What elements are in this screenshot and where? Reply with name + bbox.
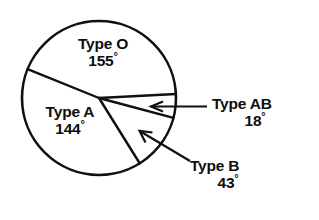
degree-symbol-icon: ° (261, 110, 265, 122)
slice-label-type-ab-value: 18° (212, 113, 312, 130)
slice-label-type-o-number: 155 (88, 52, 113, 69)
slice-label-type-a-number: 144 (55, 120, 80, 137)
slice-label-type-ab: Type AB 18° (212, 96, 312, 129)
slice-label-type-b-number: 43 (217, 174, 234, 191)
slice-label-type-o-name: Type O (55, 36, 151, 53)
degree-symbol-icon: ° (114, 50, 118, 62)
slice-label-type-b-value: 43° (190, 175, 282, 192)
slice-label-type-a: Type A 144° (27, 104, 113, 137)
degree-symbol-icon: ° (234, 172, 238, 184)
slice-label-type-ab-number: 18 (244, 112, 261, 129)
slice-label-type-a-name: Type A (27, 104, 113, 121)
slice-label-type-o: Type O 155° (55, 36, 151, 69)
slice-label-type-b: Type B 43° (190, 158, 282, 191)
slice-label-type-o-value: 155° (55, 53, 151, 70)
slice-label-type-a-value: 144° (27, 121, 113, 138)
pie-chart-figure: Type O 155° Type A 144° Type AB 18° Type… (0, 0, 319, 220)
degree-symbol-icon: ° (81, 118, 85, 130)
